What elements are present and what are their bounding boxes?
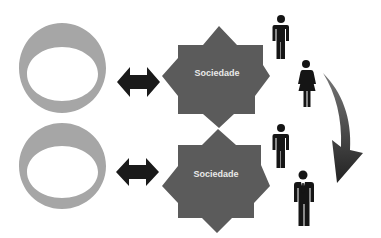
diagram-canvas: Sociedade Sociedade xyxy=(0,0,381,238)
ring-shape-1 xyxy=(19,23,106,113)
star-label-1: Sociedade xyxy=(194,68,239,78)
curved-arrow-icon xyxy=(323,73,363,183)
man-icon-1 xyxy=(273,15,290,59)
star-shape-1: Sociedade xyxy=(162,26,270,128)
star-label-2: Sociedade xyxy=(193,169,238,179)
woman-icon-1 xyxy=(298,60,316,107)
businessman-icon xyxy=(294,171,314,227)
ring-shape-2 xyxy=(19,123,106,209)
star-shape-2: Sociedade xyxy=(162,129,270,233)
double-arrow-icon-2 xyxy=(116,158,159,186)
man-icon-2 xyxy=(273,124,290,168)
double-arrow-icon-1 xyxy=(117,67,160,97)
